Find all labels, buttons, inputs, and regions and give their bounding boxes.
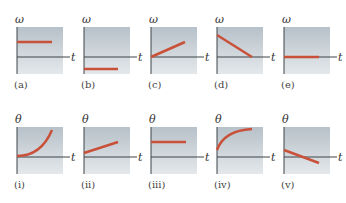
graph-v: θ t (v) bbox=[281, 114, 345, 192]
caption-ii: (ii) bbox=[81, 180, 95, 190]
caption-iii: (iii) bbox=[148, 180, 165, 190]
t-axis-label: t bbox=[138, 152, 142, 163]
omega-graph-a-plot bbox=[14, 14, 78, 78]
t-axis-label: t bbox=[71, 52, 75, 63]
t-axis-label: t bbox=[271, 52, 275, 63]
omega-graph-c-plot bbox=[148, 14, 212, 78]
caption-d: (d) bbox=[214, 80, 228, 90]
graph-ii: θ t (ii) bbox=[81, 114, 145, 192]
caption-e: (e) bbox=[281, 80, 295, 90]
graph-d: ω t (d) bbox=[214, 14, 278, 92]
theta-graph-ii-plot bbox=[81, 114, 145, 178]
theta-graph-i-plot bbox=[14, 114, 78, 178]
graph-b: ω t (b) bbox=[81, 14, 145, 92]
caption-v: (v) bbox=[281, 180, 294, 190]
caption-b: (b) bbox=[81, 80, 95, 90]
t-axis-label: t bbox=[138, 52, 142, 63]
graph-a: ω t (a) bbox=[14, 14, 78, 92]
t-axis-label: t bbox=[205, 152, 209, 163]
graph-iii: θ t (iii) bbox=[148, 114, 212, 192]
theta-graph-iv-plot bbox=[214, 114, 278, 178]
caption-i: (i) bbox=[14, 180, 25, 190]
omega-graph-b-plot bbox=[81, 14, 145, 78]
graph-i: θ t (i) bbox=[14, 114, 78, 192]
omega-graph-d-plot bbox=[214, 14, 278, 78]
t-axis-label: t bbox=[205, 52, 209, 63]
graph-c: ω t (c) bbox=[148, 14, 212, 92]
caption-iv: (iv) bbox=[214, 180, 231, 190]
graph-iv: θ t (iv) bbox=[214, 114, 278, 192]
caption-a: (a) bbox=[14, 80, 28, 90]
caption-c: (c) bbox=[148, 80, 161, 90]
theta-graph-v-plot bbox=[281, 114, 345, 178]
omega-graph-e-plot bbox=[281, 14, 345, 78]
t-axis-label: t bbox=[271, 152, 275, 163]
t-axis-label: t bbox=[338, 52, 342, 63]
theta-graph-iii-plot bbox=[148, 114, 212, 178]
t-axis-label: t bbox=[71, 152, 75, 163]
t-axis-label: t bbox=[338, 152, 342, 163]
graph-e: ω t (e) bbox=[281, 14, 345, 92]
